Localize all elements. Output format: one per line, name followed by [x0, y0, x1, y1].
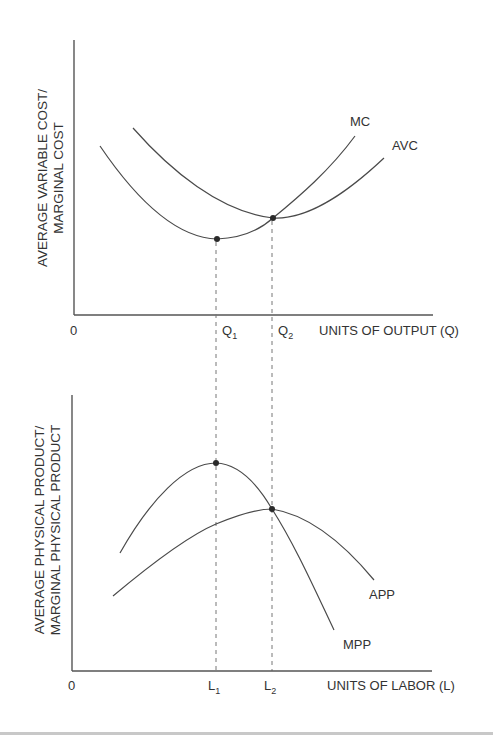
mpp-maximum-point — [213, 460, 219, 466]
mc-minimum-point — [214, 236, 220, 242]
avc-curve — [133, 128, 384, 218]
top-x-axis-label: UNITS OF OUTPUT (Q) — [319, 323, 459, 338]
app-maximum-point — [269, 506, 275, 512]
l1-label: L1 — [208, 678, 220, 696]
bottom-x-axis-label: UNITS OF LABOR (L) — [327, 678, 455, 693]
bottom-y-axis-label-line2: MARGINAL PHYSICAL PRODUCT — [48, 425, 63, 636]
q2-label: Q2 — [278, 323, 293, 341]
top-chart: AVERAGE VARIABLE COST/ MARGINAL COST MC … — [35, 40, 459, 341]
top-origin-label: 0 — [70, 323, 77, 338]
mpp-curve — [120, 463, 334, 630]
q1-label: Q1 — [222, 323, 237, 341]
avc-label: AVC — [392, 138, 418, 153]
bottom-divider — [0, 732, 493, 735]
mc-label: MC — [350, 114, 370, 129]
cost-product-diagram: AVERAGE VARIABLE COST/ MARGINAL COST MC … — [0, 0, 493, 736]
top-y-axis-label-line2: MARGINAL COST — [51, 122, 66, 233]
l2-label: L2 — [264, 678, 276, 696]
bottom-chart: AVERAGE PHYSICAL PRODUCT/ MARGINAL PHYSI… — [32, 395, 455, 696]
top-y-axis-label-line1: AVERAGE VARIABLE COST/ — [35, 89, 50, 267]
app-label: APP — [369, 587, 395, 602]
avc-minimum-point — [270, 215, 276, 221]
mpp-label: MPP — [343, 637, 371, 652]
mc-curve — [100, 136, 355, 239]
bottom-y-axis-label-line1: AVERAGE PHYSICAL PRODUCT/ — [32, 425, 47, 634]
app-curve — [113, 509, 374, 596]
bottom-origin-label: 0 — [68, 678, 75, 693]
